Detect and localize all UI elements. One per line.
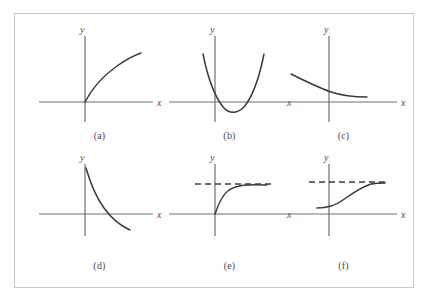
x-axis-label: x — [156, 209, 162, 220]
x-axis-label: x — [400, 209, 406, 220]
figure-container: y x (a) y x (b) y x — [0, 0, 427, 302]
x-axis-label: x — [400, 97, 406, 108]
panel-f-plot: y x — [277, 152, 410, 264]
y-axis-label: y — [209, 24, 215, 35]
curve-a — [85, 53, 141, 102]
panel-f: y x (f) — [277, 152, 410, 283]
panel-a-caption: (a) — [33, 130, 166, 141]
panel-a-plot: y x — [33, 22, 166, 134]
y-axis-label: y — [323, 24, 329, 35]
curve-e — [215, 185, 267, 214]
panel-c: y x (c) — [277, 22, 410, 153]
panel-f-caption: (f) — [277, 260, 410, 271]
panel-d-plot: y x — [33, 152, 166, 264]
panel-c-caption: (c) — [277, 130, 410, 141]
panel-d-caption: (d) — [33, 260, 166, 271]
y-axis-label: y — [323, 152, 329, 163]
curve-d — [86, 168, 130, 230]
x-axis-label: x — [156, 97, 162, 108]
curve-f — [317, 183, 385, 208]
y-axis-label: y — [209, 152, 215, 163]
figure-border-box: y x (a) y x (b) y x — [14, 13, 414, 288]
panel-c-plot: y x — [277, 22, 410, 134]
y-axis-label: y — [79, 152, 85, 163]
panel-d: y x (d) — [33, 152, 166, 283]
curve-b — [203, 54, 264, 112]
y-axis-label: y — [79, 24, 85, 35]
panel-a: y x (a) — [33, 22, 166, 153]
